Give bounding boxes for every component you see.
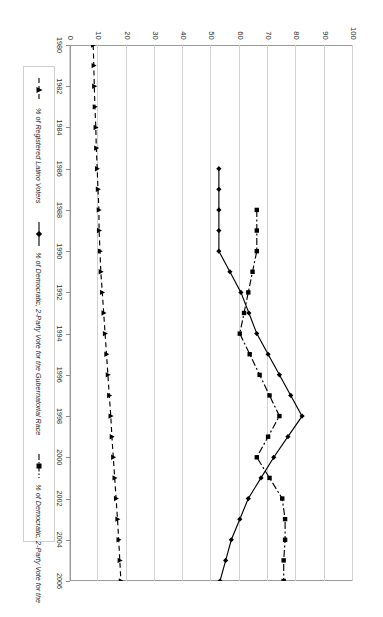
year-tick-label: 1982 [55,76,64,96]
value-tick-label: 80 [292,18,301,40]
legend-label: % of Democratic, 2-Party Vote for the Se… [35,484,44,605]
series-line [93,45,121,581]
value-tick-label: 90 [321,18,330,40]
chart-legend: % of Registered Latino Voters % of Democ… [23,66,55,542]
data-point-marker [266,352,271,357]
legend-item[interactable]: % of Democratic, 2-Party Vote for the Se… [34,453,44,605]
value-tick-label: 40 [179,18,188,40]
data-point-marker [216,228,221,233]
data-point-marker [288,393,293,398]
data-point-marker [277,372,282,377]
data-point-marker [248,352,252,356]
data-point-marker [277,414,281,418]
value-tick-label: 30 [151,18,160,40]
line-chart: 0102030405060708090100 19801982198419861… [13,11,369,605]
data-point-marker [254,331,259,336]
data-point-marker [266,434,270,438]
data-point-marker [281,579,285,581]
data-point-marker [242,311,246,315]
diamond-solid-key-icon [34,221,44,247]
data-point-marker [267,476,271,480]
legend-label: % of Registered Latino Voters [35,108,44,203]
year-tick-label: 2006 [55,571,64,591]
year-tick-label: 1980 [55,35,64,55]
data-point-marker [237,517,242,522]
data-point-marker [238,290,243,295]
year-tick-label: 1998 [55,406,64,426]
legend-label: % of Democratic, 2-Party Vote for the Gu… [35,252,44,435]
data-point-marker [283,517,287,521]
data-point-marker [255,228,259,232]
value-tick-label: 100 [349,18,358,40]
year-tick-label: 1986 [55,159,64,179]
series-line [240,210,285,581]
data-point-marker [217,578,222,581]
rotated-chart-wrapper: 0102030405060708090100 19801982198419861… [13,11,369,605]
year-tick [66,581,70,582]
year-tick-label: 1994 [55,324,64,344]
data-point-marker [257,373,261,377]
square-dashdot-key-icon [34,453,44,479]
legend-item[interactable]: % of Democratic, 2-Party Vote for the Gu… [34,221,44,435]
year-tick-label: 2004 [55,530,64,550]
data-point-marker [227,269,232,274]
chart-page: 0102030405060708090100 19801982198419861… [0,0,383,617]
data-point-marker [216,166,221,171]
year-tick-label: 1984 [55,117,64,137]
value-tick-label: 10 [94,18,103,40]
data-point-marker [246,496,251,501]
year-tick-label: 1992 [55,282,64,302]
year-tick-label: 2000 [55,447,64,467]
data-point-marker [255,208,259,212]
data-point-marker [281,558,285,562]
year-tick-label: 1996 [55,365,64,385]
data-point-marker [216,249,221,254]
legend-item[interactable]: % of Registered Latino Voters [34,77,44,203]
series-layer [70,45,353,581]
value-tick-label: 0 [66,18,75,40]
data-point-marker [223,558,228,563]
data-point-marker [229,537,234,542]
data-point-marker [267,393,271,397]
data-point-marker [216,187,221,192]
data-point-marker [238,331,242,335]
value-tick-label: 50 [208,18,217,40]
data-point-marker [246,310,251,315]
value-tick-label: 70 [264,18,273,40]
year-tick-label: 1988 [55,200,64,220]
year-tick-label: 2002 [55,489,64,509]
year-tick-label: 1990 [55,241,64,261]
data-point-marker [283,538,287,542]
data-point-marker [246,290,250,294]
data-point-marker [255,249,259,253]
value-tick-label: 20 [123,18,132,40]
data-point-marker [119,578,124,581]
data-point-marker [280,496,284,500]
data-point-marker [255,455,259,459]
data-point-marker [216,207,221,212]
data-point-marker [250,270,254,274]
triangle-dashed-key-icon [34,77,44,103]
value-tick-label: 60 [236,18,245,40]
